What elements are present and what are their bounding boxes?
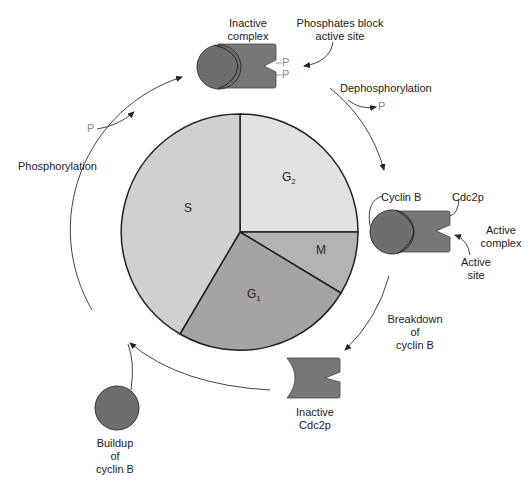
cdc2p-label: Cdc2p (452, 191, 484, 204)
buildup-arrow (128, 344, 132, 390)
phase-m-label: M (316, 243, 326, 257)
inactive-complex-label: Inactivecomplex (218, 17, 278, 43)
phosphorylation-label: Phosphorylation (18, 160, 97, 173)
active-complex-shape (370, 210, 450, 254)
cell-cycle-diagram: S G2 M G1 Inactivecomplex Phosphates blo… (0, 0, 531, 487)
dephosphorylation-label: Dephosphorylation (340, 82, 432, 95)
phosphates-block-label: Phosphates blockactive site (290, 17, 390, 43)
phosphate-added: P (87, 122, 94, 134)
active-site-label: Activesite (456, 256, 496, 282)
cyclin-b-free (95, 386, 139, 430)
inactive-cdc2p-label: InactiveCdc2p (290, 406, 340, 432)
cyclin-b-active (370, 210, 414, 254)
phosphate-released: P (378, 100, 385, 112)
phase-g1-label: G1 (247, 287, 261, 303)
active-site-arrow (455, 235, 470, 255)
diagram-canvas (0, 0, 531, 487)
inactive-complex-shape (197, 44, 282, 89)
phosphate-2: P (282, 68, 289, 80)
phosphate-out-arrow (348, 100, 376, 108)
dephosphorylation-arc (330, 88, 384, 170)
cyclin-b-label: Cyclin B (381, 191, 421, 204)
phosphates-block-arrow (304, 42, 333, 66)
buildup-label: Buildupofcyclin B (90, 437, 140, 476)
breakdown-arc (345, 276, 389, 350)
inactive-cdc2p-shape (287, 358, 340, 398)
cdc2p-free (287, 358, 340, 398)
active-complex-label: Activecomplex (476, 224, 526, 250)
breakdown-label: Breakdownofcyclin B (385, 313, 445, 352)
phase-g2-label: G2 (282, 170, 296, 186)
phosphate-1: P (282, 56, 289, 68)
phase-g2-slice (240, 114, 358, 232)
cell-cycle-pie (121, 114, 358, 350)
phosphate-in-arrow (97, 112, 134, 129)
phase-s-label: S (184, 201, 192, 215)
cyclin-b-top (197, 45, 241, 89)
